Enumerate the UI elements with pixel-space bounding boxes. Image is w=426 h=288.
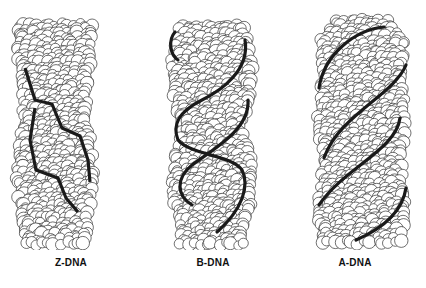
panel-z-dna: Z-DNA (0, 0, 142, 288)
panel-b-dna: B-DNA (142, 0, 284, 288)
panel-a-dna: A-DNA (284, 0, 426, 288)
z-dna-space-filling-model (0, 0, 142, 250)
b-dna-space-filling-model (142, 0, 284, 250)
a-dna-label: A-DNA (284, 257, 426, 268)
z-dna-label: Z-DNA (0, 257, 142, 268)
z-dna-atoms (10, 18, 99, 250)
a-dna-space-filling-model (284, 0, 426, 250)
b-dna-label: B-DNA (142, 257, 284, 268)
